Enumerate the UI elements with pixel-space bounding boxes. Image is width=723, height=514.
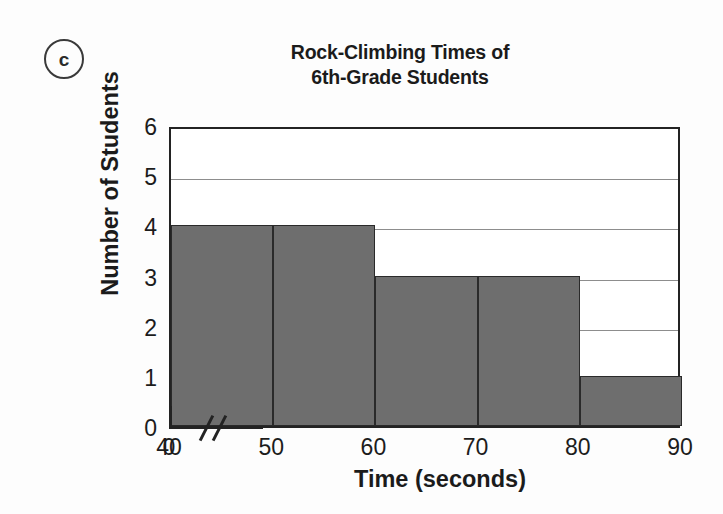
y-tick-label: 3 <box>117 267 157 290</box>
y-tick-label: 1 <box>117 367 157 390</box>
histogram-bar <box>171 225 273 426</box>
axis-break-slash-2 <box>212 415 227 441</box>
x-tick-label: 40 <box>139 436 199 459</box>
x-axis-title: Time (seconds) <box>225 466 655 493</box>
chart-title: Rock-Climbing Times of 6th-Grade Student… <box>200 40 600 90</box>
part-label-text: c <box>59 50 70 69</box>
y-tick-label: 4 <box>117 216 157 239</box>
y-tick-label: 6 <box>117 116 157 139</box>
chart-title-line-2: 6th-Grade Students <box>200 65 600 90</box>
y-tick-label: 5 <box>117 166 157 189</box>
histogram-bar <box>375 276 477 427</box>
histogram-figure: c Rock-Climbing Times of 6th-Grade Stude… <box>0 0 723 514</box>
chart-title-line-1: Rock-Climbing Times of <box>200 40 600 65</box>
x-tick-label: 60 <box>343 436 403 459</box>
x-tick-label: 90 <box>650 436 710 459</box>
x-tick-label: 50 <box>241 436 301 459</box>
axis-break-slash-1 <box>199 415 214 441</box>
y-tick-label: 2 <box>117 317 157 340</box>
histogram-bar <box>478 276 580 427</box>
x-tick-label: 80 <box>548 436 608 459</box>
axis-break-icon <box>198 414 232 444</box>
x-tick-label: 70 <box>446 436 506 459</box>
plot-area <box>169 127 680 428</box>
x-axis-origin-tick <box>169 406 172 428</box>
part-label-c: c <box>44 39 84 79</box>
histogram-bar <box>273 225 375 426</box>
histogram-bar <box>580 376 682 426</box>
gridline-y-5 <box>171 179 678 180</box>
